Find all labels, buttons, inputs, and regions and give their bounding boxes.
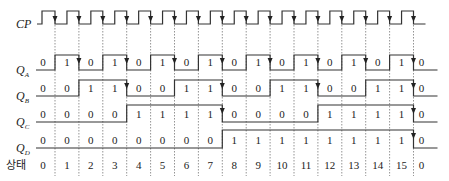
state-number: 11 [301, 159, 312, 171]
state-number: 14 [372, 159, 384, 171]
state-number: 1 [64, 159, 70, 171]
qc-value: 1 [184, 108, 190, 120]
qc-value: 0 [88, 108, 94, 120]
falling-edge-arrow-icon [100, 16, 105, 22]
falling-edge-arrow-icon [124, 16, 129, 22]
qb-value: 0 [327, 82, 333, 94]
qd-value: 1 [279, 134, 285, 146]
state-number: 8 [232, 159, 238, 171]
qa-value: 1 [399, 56, 405, 68]
qc-value: 1 [208, 108, 214, 120]
qb-value: 0 [64, 82, 70, 94]
falling-edge-arrow-icon [172, 16, 177, 22]
qd-value: 0 [88, 134, 94, 146]
falling-edge-arrow-icon [76, 58, 81, 64]
falling-edge-arrow-icon [220, 108, 225, 114]
qb-value: 0 [40, 82, 46, 94]
qa-value: 1 [160, 56, 166, 68]
falling-edge-arrow-icon [124, 83, 129, 89]
qd-value: 0 [184, 134, 190, 146]
qc-value: 1 [399, 108, 405, 120]
qb-value: 1 [303, 82, 309, 94]
qb-value: 0 [160, 82, 166, 94]
qb-value: 1 [375, 82, 381, 94]
qc-value: 1 [160, 108, 166, 120]
qd-value: 0 [160, 134, 166, 146]
qc-value: 1 [327, 108, 333, 120]
qd-value: 1 [351, 134, 357, 146]
qb-value: 1 [112, 82, 118, 94]
qd-value: 1 [375, 134, 381, 146]
qd-value: 0 [208, 134, 214, 146]
qa-value: 1 [351, 56, 357, 68]
signal-label-qd: QD [16, 141, 30, 157]
falling-edge-arrow-icon [172, 58, 177, 64]
falling-edge-arrow-icon [315, 58, 320, 64]
qa-value: 0 [375, 56, 381, 68]
qa-value: 0 [184, 56, 190, 68]
qc-value: 0 [255, 108, 261, 120]
qa-value: 0 [232, 56, 238, 68]
qb-value: 0 [232, 82, 238, 94]
state-number: 12 [324, 159, 335, 171]
state-number: 10 [277, 159, 289, 171]
state-number: 7 [208, 159, 214, 171]
falling-edge-arrow-icon [411, 133, 416, 139]
qa-value: 0 [136, 56, 142, 68]
qc-value: 0 [419, 108, 425, 120]
qc-value: 0 [279, 108, 285, 120]
qa-value: 0 [327, 56, 333, 68]
qb-value: 1 [184, 82, 190, 94]
qc-value: 0 [232, 108, 238, 120]
qa-value: 1 [303, 56, 309, 68]
signal-label-qa: QA [16, 63, 30, 79]
falling-edge-arrow-icon [76, 16, 81, 22]
qa-value: 1 [64, 56, 70, 68]
qa-value: 0 [279, 56, 285, 68]
falling-edge-arrow-icon [148, 16, 153, 22]
qd-value: 1 [327, 134, 333, 146]
qd-value: 1 [255, 134, 261, 146]
falling-edge-arrow-icon [315, 83, 320, 89]
state-number: 5 [160, 159, 166, 171]
qc-value: 0 [40, 108, 46, 120]
state-row-label: 상태 [6, 159, 26, 172]
qb-value: 0 [255, 82, 261, 94]
falling-edge-arrow-icon [196, 16, 201, 22]
falling-edge-arrow-icon [411, 108, 416, 114]
falling-edge-arrow-icon [124, 58, 129, 64]
qd-value: 0 [136, 134, 142, 146]
falling-edge-arrow-icon [411, 83, 416, 89]
qa-value: 0 [40, 56, 46, 68]
state-number: 0 [419, 159, 425, 171]
falling-edge-arrow-icon [220, 58, 225, 64]
qb-value: 0 [419, 82, 425, 94]
state-number: 0 [40, 159, 46, 171]
qc-value: 1 [351, 108, 357, 120]
qd-value: 1 [232, 134, 238, 146]
falling-edge-arrow-icon [411, 16, 416, 22]
qb-value: 1 [279, 82, 285, 94]
qb-value: 0 [351, 82, 357, 94]
state-number: 13 [348, 159, 360, 171]
signal-label-qc: QC [16, 115, 30, 131]
signal-label-qb: QB [16, 89, 30, 105]
falling-edge-arrow-icon [220, 83, 225, 89]
falling-edge-arrow-icon [363, 16, 368, 22]
qc-value: 0 [64, 108, 70, 120]
qd-value: 0 [64, 134, 70, 146]
qa-value: 0 [88, 56, 94, 68]
qd-value: 0 [419, 134, 425, 146]
qa-value: 0 [419, 56, 425, 68]
qd-value: 0 [112, 134, 118, 146]
timing-diagram: CPQA01010101010101010QB00110011001100110… [0, 0, 449, 181]
state-number: 4 [136, 159, 142, 171]
state-number: 15 [396, 159, 408, 171]
falling-edge-arrow-icon [363, 58, 368, 64]
falling-edge-arrow-icon [292, 16, 297, 22]
qb-value: 1 [208, 82, 214, 94]
state-number: 9 [255, 159, 261, 171]
qb-value: 0 [136, 82, 142, 94]
state-number: 6 [184, 159, 190, 171]
qc-value: 1 [136, 108, 142, 120]
